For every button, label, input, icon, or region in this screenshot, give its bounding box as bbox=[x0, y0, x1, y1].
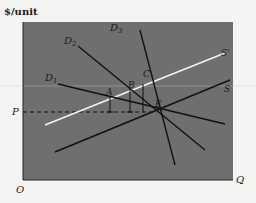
point-b-label: B bbox=[127, 80, 135, 90]
point-c-label: C bbox=[143, 69, 150, 79]
price-label: P bbox=[11, 106, 19, 117]
y-axis-label: $/unit bbox=[4, 6, 38, 17]
s-prime-label: S' bbox=[221, 48, 230, 58]
point-e-label: E bbox=[154, 99, 162, 109]
supply-demand-diagram: $/unit Q O P D1 D2 D3 S S' A B C E bbox=[0, 0, 256, 203]
point-a-label: A bbox=[105, 87, 113, 97]
x-axis-label: Q bbox=[236, 174, 244, 185]
s-label: S bbox=[224, 84, 230, 94]
origin-label: O bbox=[16, 184, 24, 195]
